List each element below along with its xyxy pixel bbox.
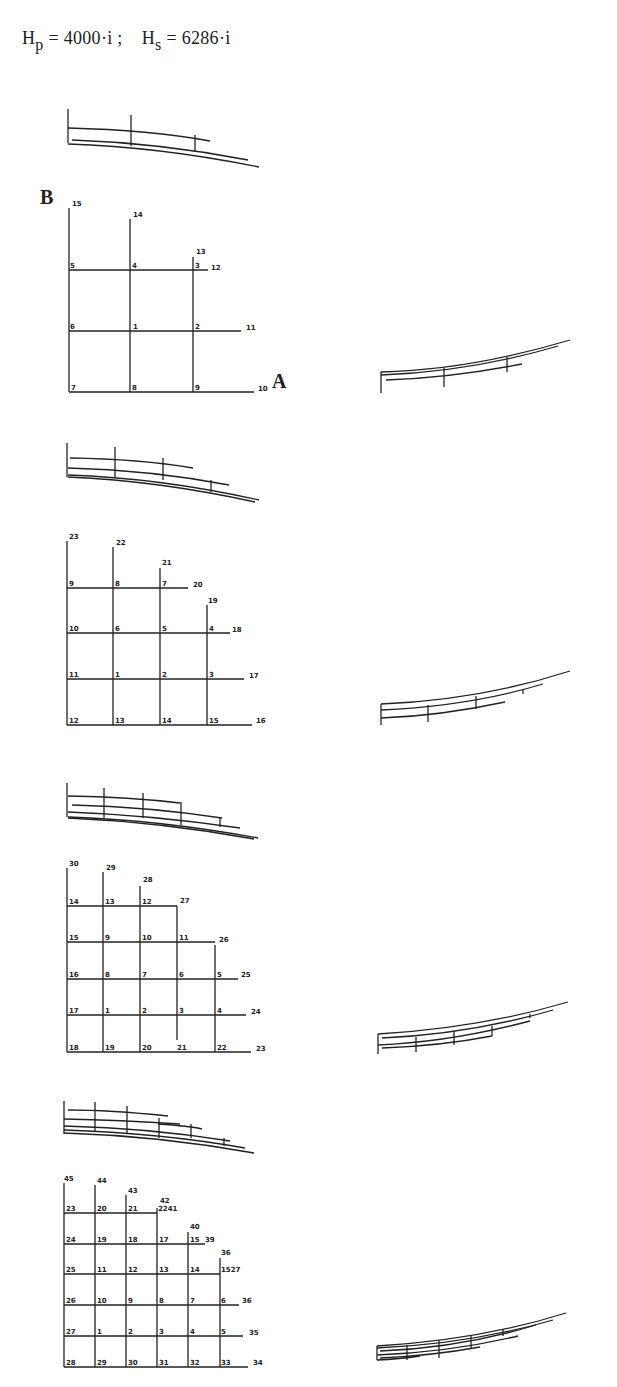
svg-text:22: 22 (116, 539, 126, 547)
svg-text:33: 33 (221, 1359, 231, 1367)
svg-text:27: 27 (180, 897, 190, 905)
svg-text:11: 11 (179, 934, 189, 942)
figure3-section-profile (378, 1002, 568, 1054)
svg-text:9: 9 (195, 384, 200, 392)
svg-text:3: 3 (159, 1328, 164, 1336)
svg-text:2: 2 (128, 1328, 133, 1336)
svg-text:39: 39 (205, 1236, 215, 1244)
svg-text:21: 21 (162, 559, 172, 567)
svg-text:8: 8 (132, 384, 137, 392)
svg-text:2: 2 (142, 1007, 147, 1015)
svg-text:14: 14 (69, 898, 79, 906)
svg-text:3: 3 (179, 1007, 184, 1015)
svg-text:10: 10 (69, 625, 79, 633)
svg-text:6: 6 (70, 323, 75, 331)
svg-text:29: 29 (106, 864, 116, 872)
svg-text:2: 2 (195, 323, 200, 331)
svg-text:3: 3 (195, 262, 200, 270)
svg-text:3: 3 (209, 671, 214, 679)
svg-text:19: 19 (97, 1236, 107, 1244)
svg-text:20: 20 (142, 1044, 152, 1052)
figure4-labels: 45 44 43 42 40 36 23 20 21 2241 24 19 18… (64, 1175, 263, 1367)
svg-text:43: 43 (128, 1187, 138, 1195)
svg-text:30: 30 (69, 860, 79, 868)
svg-text:6: 6 (115, 625, 120, 633)
svg-text:13: 13 (159, 1266, 169, 1274)
svg-text:35: 35 (249, 1329, 259, 1337)
figure2-grid (67, 541, 252, 725)
svg-text:36: 36 (242, 1297, 252, 1305)
svg-text:27: 27 (66, 1328, 76, 1336)
svg-text:15: 15 (209, 717, 219, 725)
svg-text:17: 17 (249, 672, 259, 680)
figure3-elevation-profile (67, 783, 258, 839)
svg-text:1: 1 (105, 1007, 110, 1015)
figure2-section-profile (381, 671, 570, 725)
svg-text:24: 24 (251, 1008, 261, 1016)
svg-text:8: 8 (115, 580, 120, 588)
svg-text:20: 20 (97, 1205, 107, 1213)
svg-text:13: 13 (105, 898, 115, 906)
svg-text:30: 30 (128, 1359, 138, 1367)
svg-text:23: 23 (256, 1045, 266, 1053)
svg-text:19: 19 (105, 1044, 115, 1052)
svg-text:12: 12 (142, 898, 152, 906)
figure3-labels: 30 29 28 27 26 25 24 23 14 13 12 15 9 10… (69, 860, 266, 1053)
svg-text:24: 24 (66, 1236, 76, 1244)
svg-text:31: 31 (159, 1359, 169, 1367)
svg-text:18: 18 (128, 1236, 138, 1244)
svg-text:4: 4 (209, 625, 214, 633)
figure2-elevation-profile (67, 443, 259, 502)
svg-text:23: 23 (69, 533, 79, 541)
svg-text:4: 4 (132, 262, 137, 270)
svg-text:14: 14 (162, 717, 172, 725)
svg-text:42: 42 (160, 1197, 170, 1205)
svg-text:18: 18 (232, 626, 242, 634)
svg-text:10: 10 (258, 385, 268, 393)
svg-text:1527: 1527 (221, 1266, 241, 1274)
svg-text:21: 21 (128, 1205, 138, 1213)
svg-text:18: 18 (69, 1044, 79, 1052)
figure-drawings: 15 14 13 12 5 4 3 6 1 2 11 7 8 9 10 (0, 0, 617, 1387)
svg-text:26: 26 (219, 936, 229, 944)
svg-text:2241: 2241 (158, 1205, 178, 1213)
svg-text:5: 5 (221, 1328, 226, 1336)
svg-text:12: 12 (211, 264, 221, 272)
svg-text:32: 32 (190, 1359, 200, 1367)
svg-text:5: 5 (162, 625, 167, 633)
svg-text:22: 22 (217, 1044, 227, 1052)
svg-text:40: 40 (190, 1223, 200, 1231)
figure4-grid (64, 1183, 248, 1367)
svg-text:17: 17 (159, 1236, 169, 1244)
figure1-grid (69, 208, 254, 392)
svg-text:1: 1 (97, 1328, 102, 1336)
svg-text:14: 14 (190, 1266, 200, 1274)
svg-text:9: 9 (105, 934, 110, 942)
svg-text:28: 28 (66, 1359, 76, 1367)
svg-text:20: 20 (193, 581, 203, 589)
svg-text:9: 9 (128, 1297, 133, 1305)
svg-text:25: 25 (66, 1266, 76, 1274)
svg-text:16: 16 (69, 971, 79, 979)
svg-text:9: 9 (69, 580, 74, 588)
svg-text:26: 26 (66, 1297, 76, 1305)
svg-text:14: 14 (133, 211, 143, 219)
svg-text:2: 2 (162, 671, 167, 679)
svg-text:17: 17 (69, 1007, 79, 1015)
svg-text:23: 23 (66, 1205, 76, 1213)
svg-text:16: 16 (256, 717, 266, 725)
figure1-labels: 15 14 13 12 5 4 3 6 1 2 11 7 8 9 10 (70, 200, 268, 393)
svg-text:13: 13 (115, 717, 125, 725)
svg-text:15: 15 (190, 1236, 200, 1244)
svg-text:11: 11 (97, 1266, 107, 1274)
svg-text:36: 36 (221, 1249, 231, 1257)
svg-text:29: 29 (97, 1359, 107, 1367)
svg-text:4: 4 (190, 1328, 195, 1336)
figure4-section-profile (377, 1313, 566, 1360)
figure1-elevation-profile (68, 109, 259, 167)
svg-text:6: 6 (221, 1297, 226, 1305)
svg-text:12: 12 (128, 1266, 138, 1274)
figure4-elevation-profile (64, 1101, 254, 1153)
svg-text:11: 11 (69, 671, 79, 679)
svg-text:25: 25 (241, 971, 251, 979)
